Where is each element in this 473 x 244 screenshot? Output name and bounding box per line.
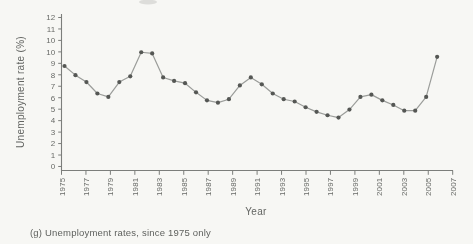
unemployment-line-chart: 1211101098765432101975197719791981198319… [0,0,473,222]
data-point [358,95,362,99]
data-point [95,91,99,95]
data-point [161,75,165,79]
figure-caption: (g) Unemployment rates, since 1975 only [30,227,211,238]
y-tick-label: 1 [51,151,56,160]
x-tick-label: 1999 [351,177,360,196]
data-point [73,73,77,77]
data-point [139,50,143,54]
data-point [336,115,340,119]
scanned-figure-page: 1211101098765432101975197719791981198319… [0,0,473,244]
y-tick-label: 0 [51,162,56,171]
data-point [183,81,187,85]
series-group [62,50,439,120]
data-point [314,110,318,114]
x-tick-label: 1989 [229,177,238,196]
axes-group: 1211101098765432101975197719791981198319… [46,13,458,196]
y-tick-label: 6 [51,94,56,103]
data-point [150,51,154,55]
data-point [391,103,395,107]
x-tick-label: 1987 [204,177,213,196]
x-tick-label: 1981 [131,177,140,196]
data-point [402,109,406,113]
data-point [260,82,264,86]
x-tick-label: 1997 [326,177,335,196]
x-tick-label: 2003 [400,177,409,196]
data-point [435,55,439,59]
y-tick-label: 5 [51,105,56,114]
y-tick-label: 12 [46,13,56,22]
y-tick-label: 9 [51,59,56,68]
data-point [304,105,308,109]
scan-artifact [139,0,157,4]
data-point [128,74,132,78]
data-point [413,109,417,113]
data-point [424,95,428,99]
x-axis-title: Year [245,206,267,217]
data-point [369,93,373,97]
y-tick-label: 11 [47,25,56,34]
x-tick-label: 1993 [278,177,287,196]
x-tick-label: 1985 [180,177,189,196]
x-tick-label: 1991 [253,177,262,196]
x-tick-label: 2001 [375,177,384,196]
x-tick-label: 1995 [302,177,311,196]
x-tick-label: 2005 [424,177,433,196]
data-point [347,107,351,111]
data-point [227,97,231,101]
data-point [62,64,66,68]
y-tick-label: 3 [51,128,56,137]
y-tick-label: 8 [51,71,56,80]
data-point [271,91,275,95]
y-tick-label: 2 [51,139,56,148]
data-point [249,75,253,79]
data-point [106,95,110,99]
data-point [172,79,176,83]
data-point [216,101,220,105]
data-point [380,98,384,102]
x-tick-label: 1977 [82,177,91,196]
y-tick-label: 10 [46,36,56,45]
y-tick-label: 10 [46,48,56,57]
data-point [238,83,242,87]
x-tick-label: 1983 [155,177,164,196]
data-point [117,80,121,84]
y-axis-title: Unemployment rate (%) [15,36,26,148]
axis-lines [62,14,454,171]
data-point [205,98,209,102]
data-point [282,97,286,101]
data-point [325,113,329,117]
x-tick-label: 2007 [449,177,458,196]
data-point [293,99,297,103]
y-tick-label: 7 [51,82,56,91]
y-tick-label: 4 [51,116,56,125]
line-series [65,52,438,117]
data-point [194,90,198,94]
x-tick-label: 1979 [106,177,115,196]
data-point [84,80,88,84]
x-tick-label: 1975 [58,177,67,196]
